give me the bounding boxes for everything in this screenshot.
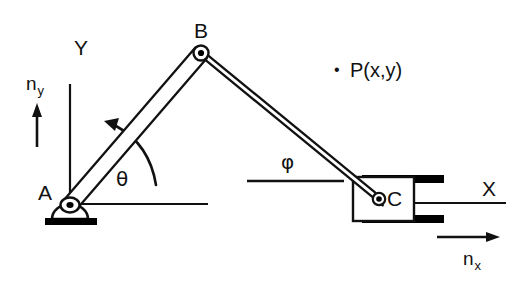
point-p-label: P(x,y) xyxy=(350,60,402,80)
axis-y-label: Y xyxy=(74,37,88,58)
link-ab xyxy=(64,47,206,210)
angle-phi-label: φ xyxy=(281,152,294,172)
mechanism-diagram: A B C Y X θ φ • P(x,y) ny nx xyxy=(0,0,523,283)
axis-x-label: X xyxy=(482,178,496,199)
unit-vector-nx-subscript: x xyxy=(474,258,482,273)
joint-a-label: A xyxy=(38,182,52,203)
pivot-a-joint xyxy=(61,198,80,213)
unit-vector-ny-arrow xyxy=(32,103,42,147)
unit-vector-ny-subscript: y xyxy=(37,83,45,98)
joint-b-label: B xyxy=(194,20,208,41)
angle-theta-label: θ xyxy=(116,169,128,189)
unit-vector-nx-arrow xyxy=(437,232,500,242)
point-p-dot-icon: • xyxy=(334,62,340,78)
ground-bar-a xyxy=(45,218,97,225)
unit-vector-ny-base: n xyxy=(26,73,37,94)
unit-vector-nx-base: n xyxy=(463,248,474,269)
joint-b xyxy=(194,46,209,61)
unit-vector-nx-label: nx xyxy=(463,249,481,272)
joint-c-label: C xyxy=(387,188,402,209)
unit-vector-ny-label: ny xyxy=(26,74,44,97)
pivot-c-joint xyxy=(373,193,385,205)
